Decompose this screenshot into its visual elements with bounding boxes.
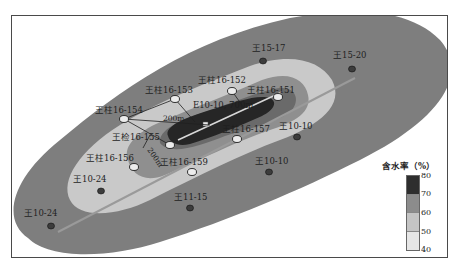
well-marker-w13 (98, 188, 105, 194)
well-label-w12: 王10-10 (255, 156, 289, 166)
well-marker-w1 (260, 58, 267, 64)
legend: 含水率（%） 80 70 60 50 40 (382, 159, 448, 254)
well-marker-w15 (48, 223, 55, 229)
well-marker-w4 (228, 88, 237, 95)
well-marker-center (203, 122, 208, 126)
well-marker-w14 (187, 205, 194, 211)
well-label-w6: 王柱16-154 (95, 105, 143, 115)
well-label-w9: 王柱16-156 (86, 153, 134, 163)
well-marker-w10 (188, 169, 197, 176)
well-label-w13: 王10-24 (73, 174, 107, 184)
well-label-w3: 王柱16-153 (145, 85, 193, 95)
well-label-w15: 王10-24 (24, 208, 58, 218)
well-label-w7: 王检16-155 (112, 132, 160, 142)
legend-tick-40: 40 (421, 245, 431, 254)
well-marker-w6 (120, 116, 129, 123)
legend-title: 含水率（%） (382, 159, 435, 171)
well-label-w11: 王10-10 (279, 121, 313, 131)
legend-tick-50: 50 (421, 227, 431, 236)
scale-annotation-200m: 200m (163, 114, 184, 123)
well-marker-w7 (166, 142, 175, 149)
legend-color-bar (406, 175, 420, 251)
well-label-w2: 王15-20 (333, 50, 367, 60)
legend-swatch-40-50 (407, 232, 419, 251)
well-marker-w3 (171, 96, 180, 103)
well-label-w8: 王柱16-157 (222, 124, 270, 134)
legend-tick-60: 60 (421, 208, 431, 217)
well-label-w4: 王柱16-152 (198, 75, 246, 85)
horizontal-well-label: E10-10, 700m (193, 100, 253, 110)
well-marker-w11 (294, 134, 301, 140)
well-label-w10: 王柱16-159 (160, 157, 208, 167)
well-label-w1: 王15-17 (252, 43, 286, 53)
legend-tick-70: 70 (421, 189, 431, 198)
legend-swatch-50-60 (407, 213, 419, 232)
legend-swatch-60-70 (407, 195, 419, 214)
well-label-w14: 王11-15 (174, 192, 208, 202)
well-marker-w2 (349, 66, 356, 72)
well-marker-w9 (130, 164, 139, 171)
well-marker-w8 (233, 136, 242, 143)
legend-tick-80: 80 (421, 171, 431, 180)
legend-swatch-70-80 (407, 176, 419, 195)
well-label-w5: 王柱16-151 (247, 85, 295, 95)
well-marker-w12 (266, 169, 273, 175)
